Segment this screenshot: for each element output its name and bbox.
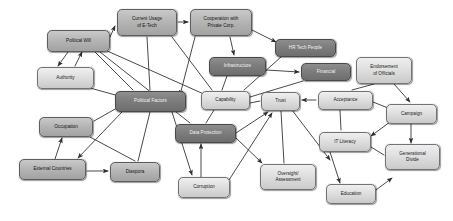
edge-cooperation-to-political_factors: [180, 37, 195, 95]
node-infrastructure[interactable]: Infrastructure: [209, 57, 266, 76]
node-trust[interactable]: Trust: [261, 92, 300, 111]
node-label-occupation: Occupation: [54, 124, 77, 130]
node-capability[interactable]: Capability: [201, 91, 250, 110]
node-label-authority: Authority: [56, 75, 74, 81]
node-label-diaspora: Diaspora: [126, 169, 145, 175]
node-diaspora[interactable]: Diaspora: [110, 162, 160, 182]
node-financial[interactable]: Financial: [301, 63, 351, 81]
edge-political_factors-to-occupation: [94, 108, 117, 121]
edge-political_will-to-authority: [58, 52, 68, 66]
edge-authority-to-political_will: [75, 52, 82, 66]
edge-current_usage-to-political_factors: [147, 37, 150, 90]
edge-endorsement-to-campaign: [394, 84, 410, 102]
node-label-it_literacy: IT Literacy: [334, 139, 356, 145]
node-cooperation[interactable]: Cooperation with Private Corp.: [190, 9, 252, 36]
node-label-corruption: Corruption: [193, 184, 215, 190]
edge-education-to-it_literacy: [376, 178, 392, 190]
edge-external_countries-to-occupation: [55, 138, 62, 159]
node-external_countries[interactable]: External Countries: [19, 159, 86, 180]
edge-infrastructure-to-financial: [266, 70, 299, 72]
node-education[interactable]: Education: [326, 184, 376, 204]
node-authority[interactable]: Authority: [37, 67, 94, 89]
node-corruption[interactable]: Corruption: [178, 177, 230, 198]
edge-endorsement-to-acceptance: [352, 84, 374, 90]
node-label-generational_divide: Generational Divide: [399, 151, 426, 163]
node-label-trust: Trust: [275, 98, 285, 104]
edge-political_will-to-capability: [105, 50, 206, 95]
node-current_usage[interactable]: Current Usage of E-Tech: [117, 9, 177, 36]
edge-cooperation-to-infrastructure: [230, 37, 234, 55]
edge-current_usage-to-capability: [172, 37, 212, 90]
node-campaign[interactable]: Campaign: [386, 104, 437, 124]
concept-map-diagram: Political WillAuthorityCurrent Usage of …: [0, 0, 453, 221]
node-generational_divide[interactable]: Generational Divide: [385, 144, 440, 170]
node-label-capability: Capability: [215, 97, 235, 103]
node-it_literacy[interactable]: IT Literacy: [319, 132, 371, 152]
edge-political_factors-to-diaspora: [138, 112, 150, 161]
edge-capability-to-data_protection: [206, 110, 214, 123]
node-label-external_countries: External Countries: [33, 166, 71, 172]
node-label-political_factors: Political Factors: [134, 98, 167, 104]
edge-capability-to-trust: [250, 101, 260, 103]
node-endorsement[interactable]: Endorsement of Officials: [356, 57, 412, 84]
node-occupation[interactable]: Occupation: [39, 117, 93, 137]
edge-political_factors-to-corruption: [172, 112, 192, 175]
node-acceptance[interactable]: Acceptance: [318, 91, 373, 110]
node-political_factors[interactable]: Political Factors: [115, 91, 186, 112]
edge-campaign-to-it_literacy: [371, 122, 390, 136]
edge-data_protection-to-oversight: [236, 138, 262, 163]
node-label-education: Education: [341, 191, 362, 197]
node-hr_tech_people[interactable]: HR Tech People: [275, 39, 336, 57]
edge-it_literacy-to-education: [330, 152, 340, 183]
node-label-financial: Financial: [317, 69, 336, 75]
node-label-data_protection: Data Protection: [190, 130, 222, 136]
node-label-infrastructure: Infrastructure: [224, 63, 251, 69]
edge-infrastructure-to-capability: [222, 76, 227, 90]
node-label-endorsement: Endorsement of Officials: [370, 64, 398, 76]
edge-political_will-to-current_usage: [110, 26, 115, 37]
edge-occupation-to-diaspora: [90, 137, 135, 161]
node-label-political_will: Political Will: [66, 38, 91, 44]
node-label-acceptance: Acceptance: [333, 97, 357, 103]
edge-political_will-to-political_factors: [95, 52, 133, 90]
edge-data_protection-to-trust: [236, 112, 268, 133]
node-political_will[interactable]: Political Will: [47, 30, 110, 52]
node-oversight[interactable]: Oversight/ Assessment: [260, 164, 316, 190]
edge-cooperation-to-hr_tech_people: [252, 30, 276, 42]
edge-it_literacy-to-generational_divide: [371, 147, 384, 155]
node-data_protection[interactable]: Data Protection: [175, 124, 236, 143]
node-label-cooperation: Cooperation with Private Corp.: [204, 16, 239, 28]
edge-political_will-to-data_protection: [100, 52, 190, 123]
node-label-campaign: Campaign: [401, 111, 422, 117]
edge-acceptance-to-it_literacy: [340, 110, 341, 130]
node-label-current_usage: Current Usage of E-Tech: [132, 16, 162, 28]
node-label-oversight: Oversight/ Assessment: [275, 171, 300, 183]
edge-trust-to-oversight: [281, 111, 284, 163]
node-label-hr_tech_people: HR Tech People: [289, 45, 322, 51]
